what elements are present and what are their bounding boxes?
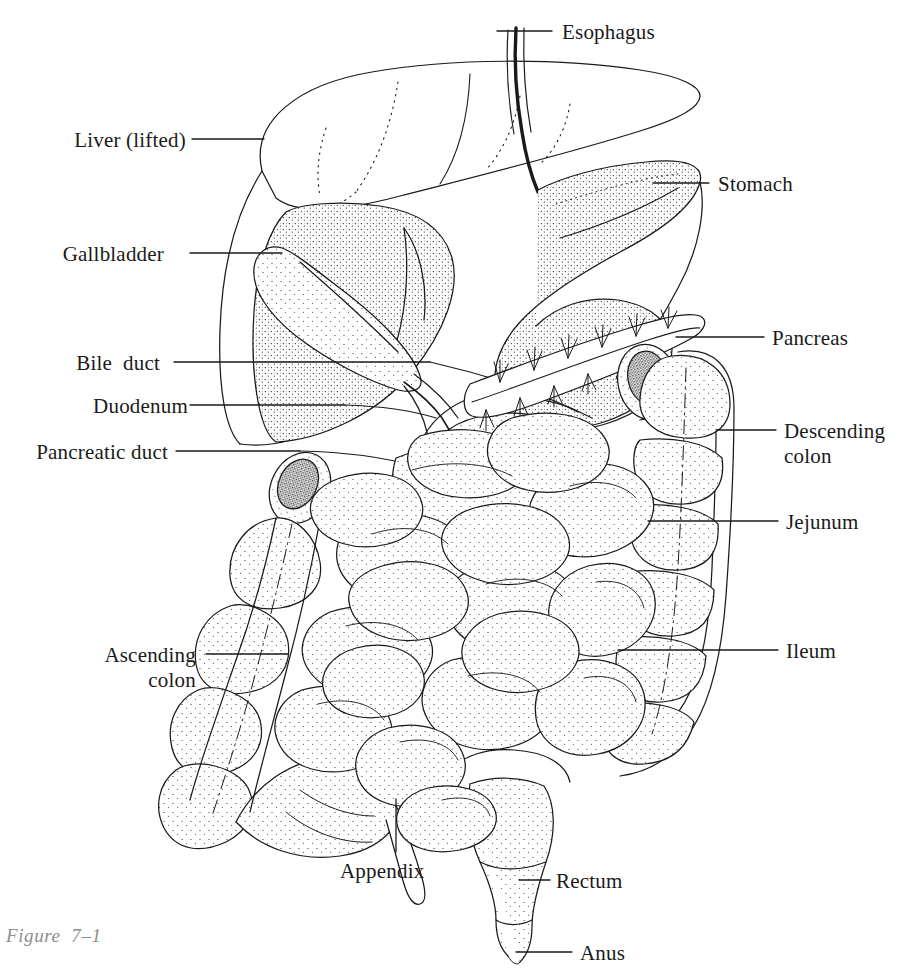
label-duodenum: Duodenum: [93, 394, 188, 419]
label-bile-duct: Bile duct: [76, 351, 160, 376]
label-appendix: Appendix: [340, 859, 424, 884]
label-descending-colon: Descending colon: [784, 419, 885, 469]
label-jejunum: Jejunum: [786, 510, 859, 535]
anatomical-figure: Liver (lifted) Gallbladder Bile duct Duo…: [0, 0, 908, 969]
label-stomach: Stomach: [718, 172, 793, 197]
label-anus: Anus: [580, 941, 625, 966]
figure-caption: Figure 7–1: [6, 925, 102, 947]
label-gallbladder: Gallbladder: [63, 242, 164, 267]
label-ascending-colon: Ascending colon: [104, 643, 196, 693]
label-liver-lifted: Liver (lifted): [74, 128, 186, 153]
label-pancreatic-duct: Pancreatic duct: [36, 440, 168, 465]
label-esophagus: Esophagus: [562, 20, 655, 45]
label-ileum: Ileum: [786, 639, 836, 664]
label-pancreas: Pancreas: [772, 326, 848, 351]
rectum-organ: [452, 750, 570, 964]
label-rectum: Rectum: [556, 869, 623, 894]
